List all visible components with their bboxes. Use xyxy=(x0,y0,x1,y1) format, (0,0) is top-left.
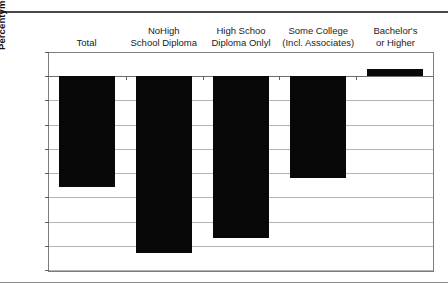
x-tick-mark xyxy=(203,76,204,80)
page-rule-bottom xyxy=(0,282,448,283)
gridline-1.0 xyxy=(49,52,433,53)
chart-plot-area: 1.00.0-1.0-2.0-3.0-4.0-5.0-6.0-7.0-8.0 xyxy=(48,52,434,272)
column-header-some-college: Some College (Incl. Associates) xyxy=(280,15,357,49)
chart-column-headers: Total NoHigh School Diploma High Schoo D… xyxy=(48,15,434,49)
column-header-total: Total xyxy=(48,15,125,49)
y-tick-mark xyxy=(45,197,49,198)
y-tick-mark xyxy=(45,76,49,77)
gridline--8.0 xyxy=(49,270,433,271)
chart-plot-inner: 1.00.0-1.0-2.0-3.0-4.0-5.0-6.0-7.0-8.0 xyxy=(49,52,433,271)
x-tick-mark xyxy=(356,76,357,80)
y-tick-mark xyxy=(45,246,49,247)
page-rule-top xyxy=(0,11,448,13)
bar xyxy=(367,69,423,76)
y-tick-mark xyxy=(45,222,49,223)
y-tick-mark xyxy=(45,149,49,150)
column-header-no-high-school-diploma: NoHigh School Diploma xyxy=(125,15,202,49)
gridline--7.0 xyxy=(49,246,433,247)
y-tick-mark xyxy=(45,173,49,174)
bar xyxy=(59,76,115,187)
bar xyxy=(136,76,192,253)
clipped-header-text xyxy=(0,0,448,5)
y-tick-mark xyxy=(45,52,49,53)
column-header-high-school-diploma-only: High Schoo Diploma Onlyl xyxy=(202,15,279,49)
x-tick-mark xyxy=(279,76,280,80)
bar xyxy=(290,76,346,178)
y-axis-title: Percentyment Change in Employ xyxy=(0,0,7,50)
y-tick-mark xyxy=(45,100,49,101)
bar xyxy=(213,76,269,238)
x-tick-mark xyxy=(126,76,127,80)
y-tick-mark xyxy=(45,270,49,271)
y-tick-mark xyxy=(45,125,49,126)
column-header-bachelors-or-higher: Bachelor's or Higher xyxy=(357,15,434,49)
